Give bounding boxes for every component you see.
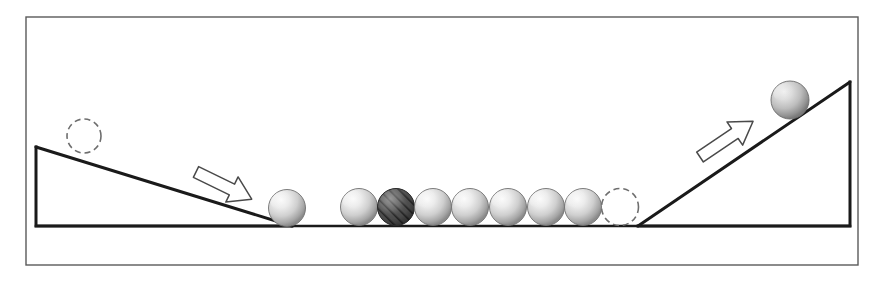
left-ramp-slope xyxy=(36,147,292,226)
ghost-ball-left-top xyxy=(67,119,101,153)
ball-row-3 xyxy=(413,187,451,225)
right-ramp-slope xyxy=(638,82,850,226)
ball-hatch-shading xyxy=(378,189,415,226)
left-ramp xyxy=(36,147,292,226)
ball-row-7 xyxy=(563,187,601,225)
ball-row-6 xyxy=(526,187,564,225)
arrow-shape xyxy=(692,110,761,169)
ball-row-2-hatched xyxy=(378,189,415,226)
right-ramp xyxy=(638,82,850,226)
physics-diagram-figure xyxy=(0,0,884,281)
ball-outgoing-right xyxy=(770,80,809,119)
ball-row-4 xyxy=(450,187,488,225)
ghost-ball-right-end xyxy=(602,189,639,226)
scene-canvas xyxy=(0,0,884,281)
arrow-right-up-icon xyxy=(692,110,761,169)
ball-incoming-left xyxy=(267,188,305,226)
ball-row-1 xyxy=(339,187,377,225)
ball-row-5 xyxy=(488,187,526,225)
